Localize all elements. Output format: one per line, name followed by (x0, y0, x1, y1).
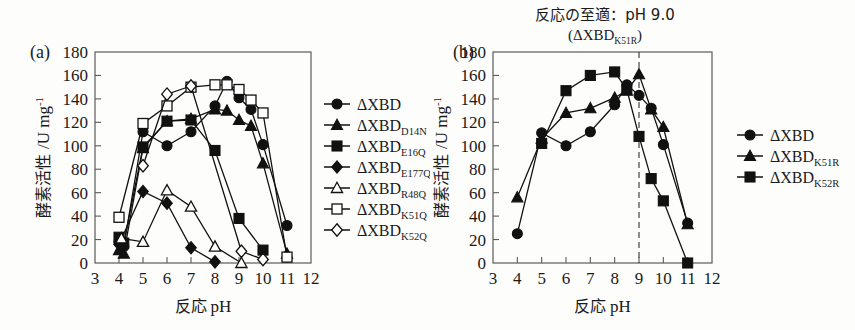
x-tick-label: 4 (513, 269, 522, 288)
panel-b-title-paren-close: ) (637, 27, 642, 44)
legend-label-subscript: K51R (814, 157, 839, 168)
x-tick-label: 9 (235, 269, 244, 288)
x-axis-title-en: pH (211, 297, 232, 316)
legend-marker-circle-filled (737, 130, 763, 140)
x-tick-label: 6 (163, 269, 172, 288)
y-tick-label: 140 (461, 90, 487, 109)
y-tick-label: 20 (469, 231, 486, 250)
x-tick-label: 10 (655, 269, 672, 288)
data-point-diamond-open (332, 224, 343, 237)
panel-a-series (113, 76, 292, 268)
plot-frame (493, 52, 712, 263)
legend-label-subscript: R48Q (401, 189, 427, 200)
y-axis-title-exponent: -1 (431, 97, 443, 106)
x-axis-title-en: pH (610, 297, 631, 316)
panel-a-x-axis-label: 反応pH (175, 297, 232, 316)
y-tick-label: 0 (478, 254, 487, 273)
legend-marker-square-filled (324, 141, 350, 151)
y-axis-title-exponent: -1 (33, 97, 45, 106)
legend-marker-triangle-filled (324, 119, 350, 129)
data-point-square-filled (646, 174, 656, 184)
y-axis-title-unit: /U mg (432, 106, 451, 149)
x-tick-label: 3 (91, 269, 100, 288)
x-tick-label: 10 (255, 269, 272, 288)
data-point-triangle-filled (233, 114, 244, 124)
legend-label-subscript: K52R (814, 178, 839, 189)
legend-item-7[interactable]: ΔXBDK52Q (324, 222, 427, 242)
y-tick-label: 180 (63, 43, 89, 62)
legend-item-3[interactable]: ΔXBDK52R (737, 169, 839, 189)
data-point-triangle-open (236, 257, 247, 267)
legend-item-2[interactable]: ΔXBDK51R (737, 148, 839, 168)
series-line (143, 86, 263, 259)
x-axis-title-jp: 反応 (574, 297, 606, 316)
legend-item-2[interactable]: ΔXBDD14N (324, 117, 427, 137)
legend-item-4[interactable]: ΔXBDE177Q (324, 159, 430, 179)
data-point-circle-filled (561, 141, 571, 151)
legend-label-base: ΔXBD (357, 138, 401, 155)
panel-b-title-subscript: K51R (614, 36, 637, 46)
x-tick-label: 12 (704, 269, 721, 288)
data-point-square-filled (186, 115, 196, 125)
data-point-square-open (282, 252, 292, 262)
x-tick-label: 8 (610, 269, 619, 288)
series-4 (114, 185, 221, 268)
legend-label-base: ΔXBD (770, 127, 814, 144)
panel-a-legend: ΔXBDΔXBDD14NΔXBDE16QΔXBDE177QΔXBDR48QΔXB… (324, 96, 430, 242)
y-tick-label: 120 (63, 113, 89, 132)
data-point-square-filled (162, 116, 172, 126)
legend-label-base: ΔXBD (770, 169, 814, 186)
data-point-diamond-filled (332, 161, 343, 174)
legend-label: ΔXBDE16Q (357, 138, 426, 158)
y-axis-title: 酵素活性/U mg-1 (431, 97, 451, 218)
legend-label: ΔXBDK52R (770, 169, 839, 189)
legend-marker-diamond-filled (324, 161, 350, 174)
legend-label: ΔXBDK52Q (357, 222, 427, 242)
legend-label: ΔXBDD14N (357, 117, 427, 137)
panel-a: (a) 345678910111202040608010012014016018… (0, 0, 430, 330)
legend-item-5[interactable]: ΔXBDR48Q (324, 180, 427, 200)
data-point-square-filled (610, 67, 620, 77)
x-tick-label: 5 (139, 269, 148, 288)
data-point-triangle-filled (658, 121, 669, 131)
legend-item-1[interactable]: ΔXBD (737, 127, 814, 144)
x-tick-label: 9 (635, 269, 644, 288)
legend-marker-square-open (324, 204, 350, 214)
data-point-triangle-open (209, 241, 220, 251)
legend-label-base: ΔXBD (357, 180, 401, 197)
y-tick-label: 100 (63, 137, 89, 156)
data-point-square-filled (537, 138, 547, 148)
y-tick-label: 80 (469, 160, 486, 179)
data-point-triangle-filled (512, 192, 523, 202)
panel-b-y-axis-label: 酵素活性/U mg-1 (431, 97, 451, 218)
panel-b-legend: ΔXBDΔXBDK51RΔXBDK52R (737, 127, 839, 189)
data-point-square-open (114, 212, 124, 222)
data-point-circle-filled (186, 127, 196, 137)
panel-b-x-axis-label: 反応pH (574, 297, 631, 316)
data-point-circle-filled (282, 220, 292, 230)
data-point-circle-filled (512, 229, 522, 239)
x-tick-label: 8 (211, 269, 220, 288)
data-point-diamond-filled (186, 242, 197, 255)
data-point-diamond-filled (138, 185, 149, 198)
panel-b-svg: 反応の至適：pH 9.0 (ΔXBDK51R) (b) 345678910111… (425, 0, 855, 330)
legend-label: ΔXBDK51Q (357, 201, 427, 221)
y-axis-title-jp: 酵素活性 (432, 154, 451, 218)
data-point-circle-filled (258, 140, 268, 150)
y-tick-label: 80 (71, 160, 88, 179)
legend-label: ΔXBDR48Q (357, 180, 427, 200)
y-tick-label: 20 (71, 231, 88, 250)
data-point-square-filled (561, 86, 571, 96)
legend-item-3[interactable]: ΔXBDE16Q (324, 138, 426, 158)
data-point-diamond-open (236, 245, 247, 258)
x-tick-label: 6 (562, 269, 571, 288)
legend-label-base: ΔXBD (357, 201, 401, 218)
series-5 (116, 185, 247, 268)
data-point-circle-filled (745, 130, 755, 140)
legend-item-6[interactable]: ΔXBDK51Q (324, 201, 427, 221)
x-tick-label: 3 (489, 269, 498, 288)
panel-a-letter: (a) (30, 42, 50, 63)
panel-b-series (512, 67, 694, 268)
x-tick-label: 12 (303, 269, 320, 288)
legend-item-1[interactable]: ΔXBD (324, 96, 401, 113)
